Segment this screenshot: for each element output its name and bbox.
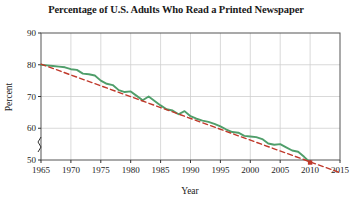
x-axis-title: Year <box>181 186 199 196</box>
y-tick-label: 60 <box>27 123 37 133</box>
x-tick-label: 1995 <box>211 165 230 175</box>
trend-intersection-marker <box>308 160 312 164</box>
grid-lines <box>41 33 340 160</box>
x-tick-label: 1990 <box>182 165 201 175</box>
chart-plot-area: 5060708090 19651970197519801985199019952… <box>0 0 352 198</box>
y-tick-label: 50 <box>27 155 37 165</box>
x-tick-label: 1970 <box>62 165 81 175</box>
y-axis-title: Percent <box>4 82 14 111</box>
y-axis-ticks: 5060708090 <box>27 28 41 165</box>
x-tick-label: 2005 <box>271 165 290 175</box>
x-tick-label: 1980 <box>122 165 141 175</box>
data-markers-group <box>308 160 312 164</box>
x-tick-label: 2010 <box>301 165 320 175</box>
x-tick-label: 1965 <box>32 165 51 175</box>
y-tick-label: 90 <box>27 28 37 38</box>
chart-container: Percentage of U.S. Adults Who Read a Pri… <box>0 0 352 198</box>
x-tick-label: 1975 <box>92 165 111 175</box>
y-tick-label: 70 <box>27 92 37 102</box>
y-tick-label: 80 <box>27 60 37 70</box>
x-tick-label: 1985 <box>152 165 171 175</box>
x-axis-ticks: 1965197019751980198519901995200020052010… <box>32 160 350 175</box>
x-tick-label: 2000 <box>241 165 260 175</box>
